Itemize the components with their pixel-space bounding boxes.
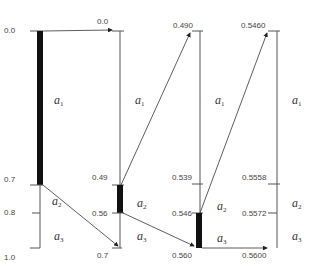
symbol-label: a1	[215, 93, 225, 108]
symbol-label: a3	[54, 229, 64, 244]
tick-label: 1.0	[4, 253, 16, 262]
tick-label: 0.0	[97, 17, 109, 26]
arrow-icon	[121, 33, 190, 185]
symbol-label: a3	[137, 229, 147, 244]
symbol-label: a2	[217, 199, 227, 214]
symbol-label: a1	[54, 93, 64, 108]
tick-label: 0.7	[97, 251, 109, 260]
tick-label: 0.49	[92, 173, 108, 182]
tick-label: 0.0	[4, 26, 16, 35]
selected-interval-bar	[196, 213, 202, 248]
arrow-icon	[200, 33, 267, 213]
symbol-label: a1	[135, 93, 145, 108]
tick-label: 0.5460	[241, 21, 266, 30]
arithmetic-coding-diagram: 0.0 0.7 0.8 1.0 a1 a2 a3 0.0 0.49 0.56 0…	[0, 0, 318, 276]
symbol-label: a2	[292, 196, 302, 211]
tick-label: 0.5558	[242, 173, 267, 182]
arrow-icon	[43, 30, 112, 31]
symbol-label: a2	[137, 196, 147, 211]
selected-interval-bar	[117, 185, 123, 213]
axis-2: 0.0 0.49 0.56 0.7 a1 a2 a3	[92, 17, 147, 260]
tick-label: 0.5600	[242, 251, 267, 260]
symbol-label: a1	[292, 93, 302, 108]
symbol-label: a3	[292, 229, 302, 244]
tick-label: 0.5572	[242, 209, 267, 218]
tick-label: 0.7	[4, 175, 16, 184]
selected-interval-bar	[37, 31, 43, 185]
axis-3: 0.490 0.539 0.546 0.560 a1 a2 a3	[172, 21, 227, 260]
tick-label: 0.546	[172, 209, 193, 218]
axis-4: 0.5460 0.5558 0.5572 0.5600 a1 a2 a3	[241, 21, 302, 260]
tick-label: 0.560	[172, 251, 193, 260]
tick-label: 0.490	[173, 21, 194, 30]
zoom-arrows	[43, 30, 267, 248]
tick-label: 0.56	[92, 209, 108, 218]
tick-label: 0.8	[4, 208, 16, 217]
axis-1: 0.0 0.7 0.8 1.0 a1 a2 a3	[4, 26, 64, 262]
symbol-label: a3	[217, 231, 227, 246]
tick-label: 0.539	[172, 173, 193, 182]
